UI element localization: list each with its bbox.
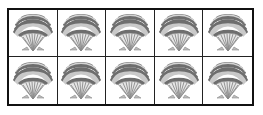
scallop-shell-icon (109, 14, 151, 52)
scallop-shell-icon (12, 14, 54, 52)
grid-cell-r1-c2 (58, 10, 107, 57)
scallop-shell-icon (109, 62, 151, 100)
scallop-shell-icon (158, 62, 200, 100)
grid-cell-r2-c4 (155, 57, 204, 104)
scallop-shell-icon (158, 14, 200, 52)
scallop-shell-icon (207, 62, 249, 100)
grid-cell-r2-c2 (58, 57, 107, 104)
shell-grid-frame (7, 8, 254, 106)
grid-cell-r1-c3 (106, 10, 155, 57)
grid-cell-r1-c1 (9, 10, 58, 57)
scallop-shell-icon (12, 62, 54, 100)
scallop-shell-icon (60, 14, 102, 52)
grid-cell-r2-c3 (106, 57, 155, 104)
grid-cell-r2-c1 (9, 57, 58, 104)
scallop-shell-icon (207, 14, 249, 52)
grid-cell-r1-c4 (155, 10, 204, 57)
scallop-shell-icon (60, 62, 102, 100)
grid-cell-r1-c5 (203, 10, 252, 57)
grid-cell-r2-c5 (203, 57, 252, 104)
